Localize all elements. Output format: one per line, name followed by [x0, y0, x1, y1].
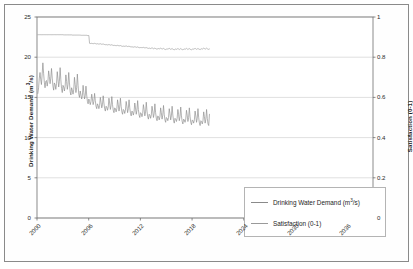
legend-item-demand: Drinking Water Demand (m3/s)	[251, 197, 360, 207]
y-axis-left-tick-label: 0	[9, 214, 31, 221]
y-axis-left-tick-label: 10	[9, 134, 31, 141]
legend-label-demand: Drinking Water Demand (m3/s)	[273, 198, 360, 206]
x-axis-tick-label: 2030	[265, 222, 295, 229]
y-axis-right-tick-label: 0	[377, 214, 401, 221]
y-axis-right-tick-label: 0.2	[377, 174, 401, 181]
x-axis-tick-label: 2006	[59, 222, 89, 229]
chart-legend: Drinking Water Demand (m3/s) Satisfactio…	[244, 187, 386, 237]
y-axis-left-tick-label: 25	[9, 13, 31, 20]
x-axis-tick-label: 2000	[7, 222, 37, 229]
y-axis-right-tick-label: 0.8	[377, 53, 401, 60]
page-frame: Drinking Water Demand (m3/s) Satisfactio…	[4, 4, 409, 262]
x-axis-tick-label: 2018	[162, 222, 192, 229]
y-axis-right-title: Satisfaction (0-1)	[406, 72, 413, 182]
y-axis-left-title: Drinking Water Demand (m3/s)	[26, 66, 34, 176]
figure-container: Drinking Water Demand (m3/s) Satisfactio…	[0, 0, 413, 269]
y-axis-right-tick-label: 0.6	[377, 93, 401, 100]
x-axis-tick-label: 2012	[110, 222, 140, 229]
legend-swatch-demand	[251, 202, 268, 203]
y-axis-right-tick-label: 0.4	[377, 134, 401, 141]
x-axis-tick-label: 2024	[214, 222, 244, 229]
y-axis-left-tick-label: 15	[9, 93, 31, 100]
x-axis-tick-label: 2036	[317, 222, 347, 229]
y-axis-right-tick-label: 1	[377, 13, 401, 20]
y-axis-left-tick-label: 5	[9, 174, 31, 181]
y-axis-left-tick-label: 20	[9, 53, 31, 60]
